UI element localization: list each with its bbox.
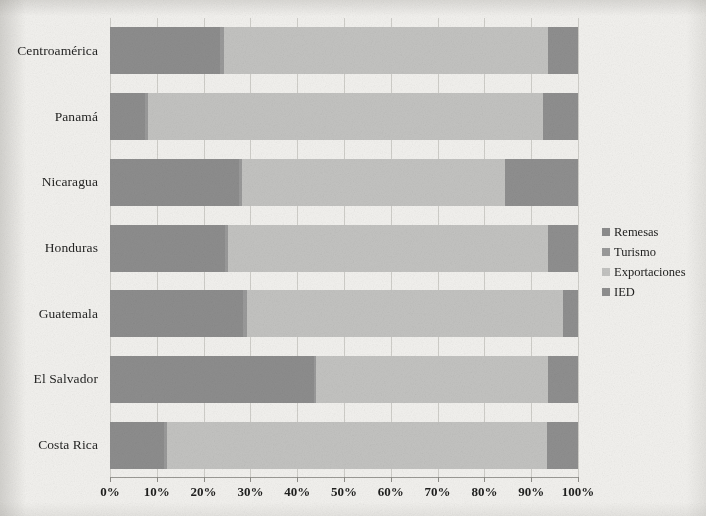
bar-segment-ied (543, 93, 578, 140)
category-label: Costa Rica (38, 437, 98, 453)
x-axis-tick-label: 100% (562, 484, 595, 500)
x-axis-tick-label: 80% (471, 484, 497, 500)
category-label: Centroamérica (17, 43, 98, 59)
bar-segment-exportaciones (247, 290, 563, 337)
x-axis-tick-label: 90% (518, 484, 544, 500)
bar-segment-ied (548, 356, 578, 403)
bar-segment-exportaciones (242, 159, 505, 206)
x-axis-tick-label: 50% (331, 484, 357, 500)
x-axis-tick (297, 477, 298, 482)
legend-label: Remesas (614, 226, 658, 239)
bar-row (110, 159, 578, 206)
legend-item: IED (602, 282, 706, 302)
category-label: Panamá (55, 109, 98, 125)
plot-area (110, 18, 578, 478)
bar-row (110, 93, 578, 140)
legend-swatch-icon (602, 268, 610, 276)
bar-row (110, 225, 578, 272)
legend-label: Turismo (614, 246, 656, 259)
legend-swatch-icon (602, 288, 610, 296)
chart-legend: RemesasTurismoExportacionesIED (602, 222, 706, 302)
x-axis-tick-label: 0% (100, 484, 120, 500)
bar-segment-remesas (110, 225, 225, 272)
category-label: El Salvador (34, 371, 98, 387)
category-axis-labels: CentroaméricaPanamáNicaraguaHondurasGuat… (0, 0, 110, 516)
bar-segment-remesas (110, 290, 243, 337)
x-axis-tick (204, 477, 205, 482)
x-axis-tick-label: 40% (284, 484, 310, 500)
bar-row (110, 356, 578, 403)
bar-segment-exportaciones (316, 356, 547, 403)
legend-item: Turismo (602, 242, 706, 262)
bar-row (110, 290, 578, 337)
x-axis-tick (157, 477, 158, 482)
bar-segment-remesas (110, 356, 314, 403)
bar-segment-ied (563, 290, 578, 337)
gridline (578, 18, 579, 478)
bar-segment-exportaciones (167, 422, 547, 469)
x-axis-tick (110, 477, 111, 482)
x-axis-tick (250, 477, 251, 482)
bar-row (110, 422, 578, 469)
x-axis-tick-label: 10% (144, 484, 170, 500)
category-label: Honduras (45, 240, 98, 256)
x-axis-tick (391, 477, 392, 482)
x-axis-tick-label: 20% (191, 484, 217, 500)
x-axis-tick-label: 60% (378, 484, 404, 500)
bar-segment-ied (547, 422, 578, 469)
bar-segment-exportaciones (224, 27, 548, 74)
bar-segment-remesas (110, 93, 145, 140)
legend-swatch-icon (602, 248, 610, 256)
x-axis-tick-label: 70% (425, 484, 451, 500)
bar-segment-remesas (110, 27, 220, 74)
bar-segment-remesas (110, 159, 239, 206)
x-axis-tick-label: 30% (237, 484, 263, 500)
legend-label: IED (614, 286, 635, 299)
x-axis-tick (578, 477, 579, 482)
x-axis-tick (531, 477, 532, 482)
x-axis-tick (484, 477, 485, 482)
legend-swatch-icon (602, 228, 610, 236)
bar-row (110, 27, 578, 74)
category-label: Nicaragua (42, 174, 98, 190)
bar-segment-ied (548, 225, 578, 272)
legend-label: Exportaciones (614, 266, 686, 279)
stacked-bar-chart: CentroaméricaPanamáNicaraguaHondurasGuat… (0, 0, 706, 516)
legend-item: Exportaciones (602, 262, 706, 282)
bar-segment-exportaciones (228, 225, 548, 272)
legend-item: Remesas (602, 222, 706, 242)
x-axis-tick (438, 477, 439, 482)
bar-segment-remesas (110, 422, 164, 469)
x-axis-tick (344, 477, 345, 482)
x-axis-tick-labels: 0%10%20%30%40%50%60%70%80%90%100% (110, 484, 578, 508)
bar-segment-ied (505, 159, 578, 206)
bar-segment-exportaciones (148, 93, 543, 140)
bar-segment-ied (548, 27, 578, 74)
category-label: Guatemala (39, 306, 98, 322)
